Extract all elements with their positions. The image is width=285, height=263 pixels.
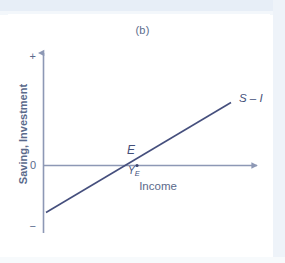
- y-tick-label-zero: 0: [22, 159, 36, 171]
- equilibrium-income-subscript: E: [135, 169, 140, 178]
- x-axis-title: Income: [123, 180, 193, 192]
- y-tick-label-plus: +: [22, 50, 36, 62]
- series-line-s-minus-i: [46, 103, 231, 213]
- equilibrium-point-label: E: [127, 143, 135, 157]
- y-tick-label-minus: −: [22, 220, 36, 232]
- y-axis-title: Saving, Investment: [17, 64, 29, 204]
- chart-canvas: [0, 0, 285, 263]
- equilibrium-income-label: YE: [128, 165, 140, 176]
- equilibrium-income-symbol: Y: [128, 165, 135, 176]
- series-label-s-minus-i: S – I: [239, 92, 263, 104]
- figure-panel-label: (b): [0, 24, 285, 36]
- figure-container: (b) Saving, Investment Income + 0 − S – …: [0, 0, 285, 263]
